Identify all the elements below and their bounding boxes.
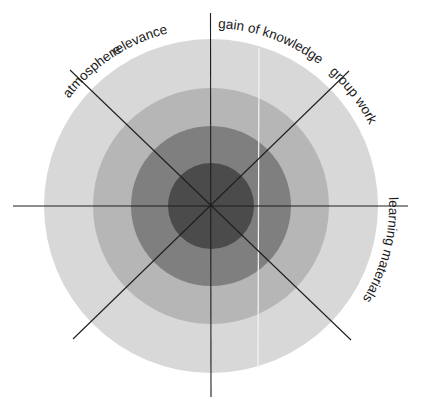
evaluation-target-diagram: atmosphere relevance gain of knowledge g… <box>0 0 423 404</box>
